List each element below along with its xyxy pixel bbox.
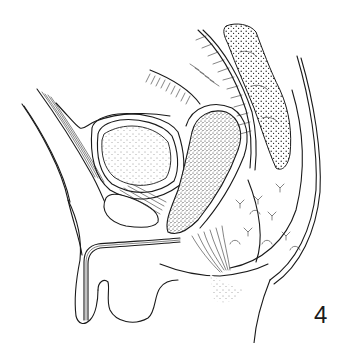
pelvis-sagittal-drawing bbox=[0, 0, 351, 343]
fat-lobule-marks bbox=[230, 184, 300, 250]
rectum bbox=[167, 105, 247, 234]
anal-sphincter-fibers bbox=[192, 226, 244, 302]
bladder bbox=[91, 114, 183, 199]
figure-number: 4 bbox=[314, 302, 327, 328]
